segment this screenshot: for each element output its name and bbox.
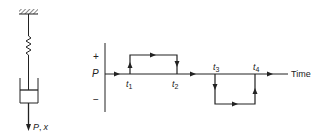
diagram-canvas: P,x + P − Time t1 t2 t3 [0, 0, 323, 139]
svg-text:P,x: P,x [33, 122, 49, 132]
arrow-down-icon [175, 61, 180, 67]
axis-minus-label: − [93, 94, 99, 105]
arrow-right-icon [150, 53, 156, 58]
label-separator: , [39, 122, 42, 132]
force-arrow-icon [26, 124, 31, 131]
positive-pulse [130, 55, 177, 74]
displacement-label: x [43, 122, 49, 132]
tick-t1: t1 [126, 79, 133, 90]
time-label: Time [291, 69, 311, 79]
mechanical-model: P,x [19, 9, 49, 132]
arrow-up-icon [253, 88, 258, 94]
time-axis-arrow-icon [267, 72, 273, 77]
axis-p-label: P [92, 68, 99, 79]
arrow-right-icon [114, 72, 120, 77]
load-history-plot: + P − Time t1 t2 t3 t4 [92, 43, 311, 112]
arrow-right-icon [232, 102, 238, 107]
tick-t3: t3 [213, 62, 220, 73]
arrow-right-icon [190, 72, 196, 77]
negative-pulse [215, 74, 255, 104]
fixed-support-icon [19, 9, 38, 14]
axis-plus-label: + [93, 51, 99, 62]
arrow-down-icon [213, 84, 218, 90]
tick-t4: t4 [253, 62, 260, 73]
arrow-up-icon [128, 62, 133, 68]
tick-t2: t2 [172, 79, 179, 90]
spring-icon [26, 36, 31, 55]
